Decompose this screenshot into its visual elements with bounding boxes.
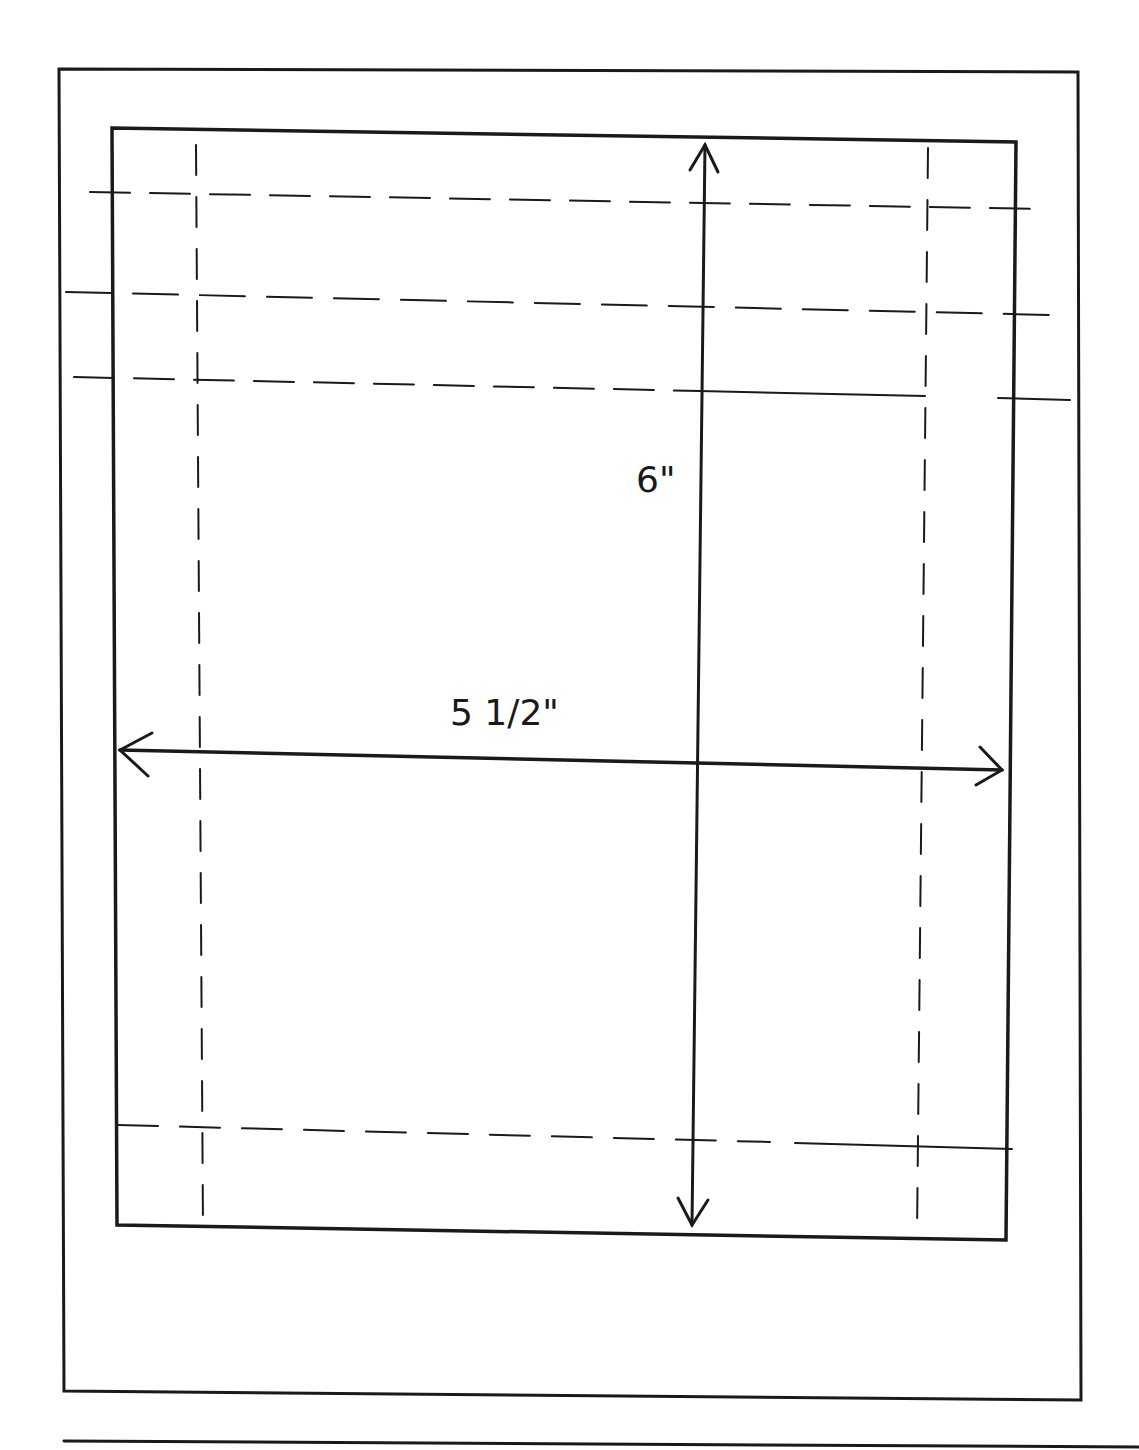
diagram-canvas — [0, 0, 1139, 1450]
width-dimension-label: 5 1/2" — [450, 695, 559, 731]
guide-line-3-solid — [700, 391, 925, 396]
guide-line-3 — [74, 377, 700, 391]
arrow-head-left-icon — [120, 733, 152, 776]
guide-line-1 — [90, 192, 1040, 209]
guide-line-2 — [66, 292, 1052, 315]
guide-line-3-tick — [998, 398, 1070, 400]
guide-line-bottom-solid — [795, 1143, 1012, 1149]
page-rectangle — [112, 128, 1016, 1240]
height-dimension-label: 6" — [636, 462, 675, 498]
arrow-head-right-icon — [976, 747, 1002, 785]
right-margin-guide — [917, 148, 928, 1236]
guide-line-bottom — [118, 1125, 770, 1142]
bottom-rule — [64, 1441, 1139, 1447]
width-dimension-line — [120, 750, 1002, 770]
left-margin-guide — [196, 145, 203, 1228]
